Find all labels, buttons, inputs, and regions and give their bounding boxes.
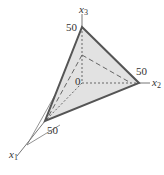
x1-axis-label: x1	[8, 148, 18, 162]
x2-tick-label: 50	[136, 65, 148, 77]
x1-tick-label: 50	[47, 124, 59, 136]
x3-tick-label: 50	[66, 21, 78, 33]
origin-label: 0	[75, 75, 81, 87]
x3-axis-label: x3	[78, 3, 88, 17]
simplex-diagram: x3 50 x2 50 x1 50 0	[0, 0, 164, 175]
x1-projection-line-a	[27, 95, 55, 145]
diagram-canvas: x3 50 x2 50 x1 50 0	[0, 0, 164, 175]
x2-axis-label: x2	[151, 76, 161, 90]
